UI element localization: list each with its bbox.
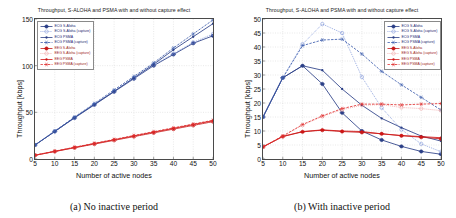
legend-swatch-icon [387,29,400,34]
x-axis-tick: 15 [71,160,78,167]
series-6 [35,120,213,157]
legend-label: ECG S-Aloha [55,24,76,29]
y-axis-tick: 50 [26,109,33,116]
x-axis-tick: 50 [209,160,216,167]
x-axis-tick: 25 [110,160,117,167]
chart-title: Throughput, S-ALOHA and PSMA with and wi… [228,7,456,13]
series-7 [35,118,213,156]
x-axis-tick: 50 [437,160,444,167]
legend-swatch-icon [387,46,400,51]
legend-label: ECG PSMA [402,35,420,40]
panel-caption: (a) No inactive period [0,201,228,212]
legend-swatch-icon [40,40,53,45]
legend-label: EEG PSMA [402,57,420,62]
legend-item[interactable]: ECG PSMA (capture) [387,40,438,45]
x-axis-tick: 30 [130,160,137,167]
legend-swatch-icon [387,57,400,62]
legend-item[interactable]: ECG PSMA [40,34,91,39]
x-axis-tick: 40 [170,160,177,167]
legend-label: ECG PSMA (capture) [55,40,88,45]
x-axis-tick: 20 [91,160,98,167]
legend-swatch-icon [387,35,400,40]
x-axis-tick: 40 [398,160,405,167]
legend-item[interactable]: ECG PSMA [387,34,438,39]
x-axis-tick: 10 [51,160,58,167]
series-5 [263,103,441,149]
x-axis-label: Number of active nodes [0,171,228,180]
legend-item[interactable]: EEG PSMA (capture) [40,62,91,67]
x-axis-tick: 5 [33,160,37,167]
chart-panel-a: Throughput, S-ALOHA and PSMA with and wi… [0,0,228,218]
legend-item[interactable]: ECG S-Aloha (capture) [387,29,438,34]
legend-item[interactable]: ECG S-Aloha (capture) [40,29,91,34]
legend-swatch-icon [387,51,400,56]
legend-swatch-icon [40,35,53,40]
chart-legend: ECG S-AlohaECG S-Aloha (capture)ECG PSMA… [37,21,94,70]
legend-item[interactable]: EEG S-Aloha [387,45,438,50]
series-0 [263,64,441,156]
legend-label: EEG PSMA (capture) [55,62,88,67]
legend-label: EEG S-Aloha [402,46,423,51]
x-axis-tick: 20 [319,160,326,167]
y-axis-label: Throughput [kbps] [243,64,252,154]
legend-item[interactable]: ECG PSMA (capture) [40,40,91,45]
x-axis-tick: 30 [358,160,365,167]
y-axis-label: Throughput [kbps] [15,64,24,154]
y-axis-tick: 45 [254,30,261,37]
legend-label: ECG PSMA [55,35,73,40]
chart-legend: ECG S-AlohaECG S-Aloha (capture)ECG PSMA… [384,21,441,70]
y-axis-tick: 100 [22,62,33,69]
y-axis-tick: 50 [254,16,261,23]
x-axis-tick: 45 [418,160,425,167]
legend-item[interactable]: EEG S-Aloha [40,45,91,50]
legend-label: EEG S-Aloha (capture) [402,51,438,56]
y-axis-tick: 25 [254,86,261,93]
panel-caption: (b) With inactive period [228,201,456,212]
legend-label: EEG PSMA [55,57,73,62]
legend-swatch-icon [387,40,400,45]
legend-label: EEG S-Aloha (capture) [55,51,91,56]
x-axis-tick: 35 [378,160,385,167]
chart-title: Throughput, S-ALOHA and PSMA with and wi… [0,7,228,13]
y-axis-tick: 15 [254,114,261,121]
legend-swatch-icon [40,46,53,51]
y-axis-tick: 20 [254,100,261,107]
series-2 [263,65,441,143]
series-7 [263,102,441,149]
legend-item[interactable]: EEG S-Aloha (capture) [387,51,438,56]
legend-swatch-icon [387,24,400,29]
legend-item[interactable]: ECG S-Aloha [40,24,91,29]
legend-label: ECG S-Aloha (capture) [402,29,438,34]
legend-item[interactable]: EEG PSMA (capture) [387,62,438,67]
legend-label: EEG PSMA (capture) [402,62,435,67]
figure-two-panel-charts: Throughput, S-ALOHA and PSMA with and wi… [0,0,456,218]
legend-label: ECG PSMA (capture) [402,40,435,45]
chart-panel-b: Throughput, S-ALOHA and PSMA with and wi… [228,0,456,218]
legend-swatch-icon [40,29,53,34]
y-axis-tick: 40 [254,44,261,51]
legend-swatch-icon [40,24,53,29]
legend-swatch-icon [387,62,400,67]
y-axis-tick: 150 [22,16,33,23]
y-axis-tick: 30 [254,72,261,79]
legend-item[interactable]: EEG PSMA [387,56,438,61]
legend-swatch-icon [40,57,53,62]
x-axis-tick: 45 [190,160,197,167]
x-axis-label: Number of active nodes [228,171,456,180]
x-axis-tick: 5 [261,160,265,167]
legend-item[interactable]: EEG S-Aloha (capture) [40,51,91,56]
x-axis-tick: 15 [299,160,306,167]
legend-item[interactable]: ECG S-Aloha [387,24,438,29]
legend-item[interactable]: EEG PSMA [40,56,91,61]
y-axis-tick: 5 [257,142,261,149]
legend-label: EEG S-Aloha [55,46,76,51]
legend-swatch-icon [40,51,53,56]
x-axis-tick: 25 [338,160,345,167]
legend-label: ECG S-Aloha (capture) [55,29,91,34]
x-axis-tick: 10 [279,160,286,167]
y-axis-tick: 35 [254,58,261,65]
y-axis-tick: 10 [254,128,261,135]
x-axis-tick: 35 [150,160,157,167]
legend-swatch-icon [40,62,53,67]
legend-label: ECG S-Aloha [402,24,423,29]
